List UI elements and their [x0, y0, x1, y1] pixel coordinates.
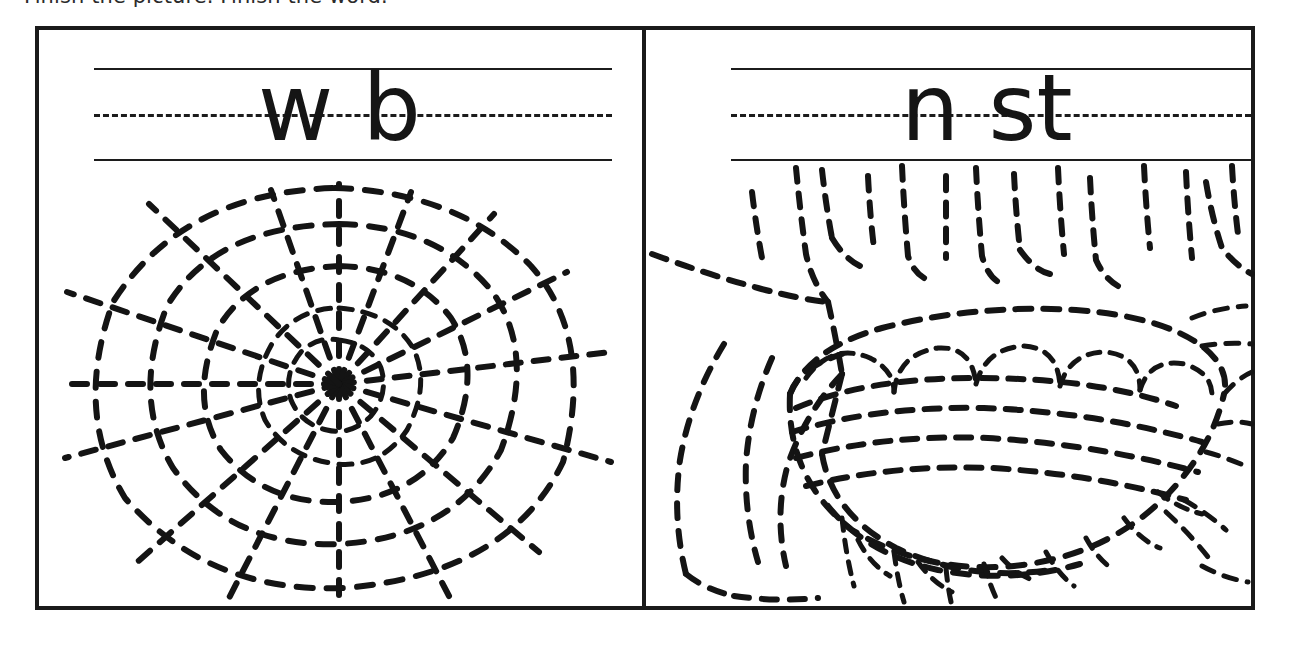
worksheet-frame: w b — [35, 26, 1255, 610]
panel-nest: n st — [646, 30, 1255, 606]
instruction-banner: Finish the picture. Finish the word. — [0, 0, 1291, 14]
word-letters-web: w b — [94, 57, 612, 161]
birds-nest-drawing — [646, 162, 1255, 606]
panel-web: w b — [39, 30, 642, 606]
handwriting-guide-web: w b — [94, 68, 612, 161]
instruction-text: Finish the picture. Finish the word. — [24, 0, 388, 8]
handwriting-guide-nest: n st — [731, 68, 1251, 161]
word-letters-nest: n st — [731, 57, 1251, 161]
picture-birds-nest — [646, 162, 1255, 606]
spider-web-drawing — [39, 162, 642, 606]
picture-spider-web — [39, 162, 642, 606]
